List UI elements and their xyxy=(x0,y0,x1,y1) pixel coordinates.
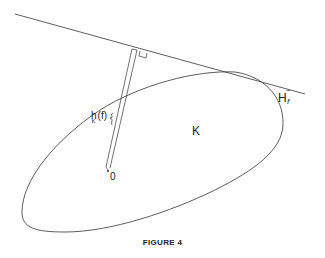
support-distance-segment xyxy=(106,49,137,170)
support-function-label: hK(f) xyxy=(91,111,110,121)
hyperplane-label: H ~ f xyxy=(278,92,287,104)
hyperplane-subscript: f xyxy=(287,98,289,106)
convex-body-K xyxy=(22,72,283,232)
origin-label: 0 xyxy=(110,172,116,182)
figure-caption: FIGURE 4 xyxy=(0,238,325,247)
figure-canvas xyxy=(0,0,325,258)
origin-point xyxy=(107,170,109,172)
body-label-K: K xyxy=(192,125,200,137)
support-function-argument: (f) xyxy=(98,110,107,121)
hyperplane-tilde: ~ xyxy=(286,87,291,95)
brace-icon xyxy=(110,113,113,125)
support-function-subscript: K xyxy=(92,118,96,124)
right-angle-marker xyxy=(139,51,147,58)
